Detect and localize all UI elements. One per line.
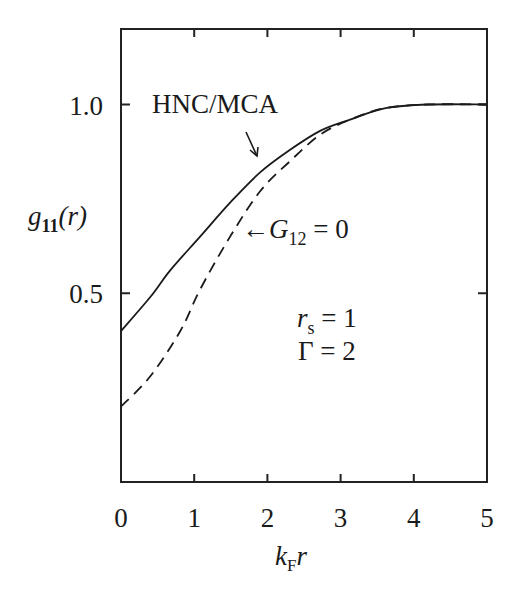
hnc-mca-label: HNC/MCA — [152, 89, 279, 119]
x-tick-label: 5 — [480, 503, 494, 533]
x-tick-label: 1 — [187, 503, 201, 533]
pair-correlation-chart: 012345 0.51.0 g11(r) kFr HNC/MCA ←G12 = … — [0, 0, 518, 594]
x-tick-labels: 012345 — [114, 503, 494, 533]
y-tick-label: 0.5 — [69, 279, 103, 309]
x-tick-label: 2 — [261, 503, 275, 533]
x-tick-label: 0 — [114, 503, 128, 533]
x-tick-label: 3 — [334, 503, 348, 533]
gamma-parameter: Γ = 2 — [298, 336, 356, 366]
hnc-mca-curve — [121, 104, 487, 331]
y-tick-labels: 0.51.0 — [69, 91, 103, 310]
x-tick-label: 4 — [407, 503, 421, 533]
y-tick-label: 1.0 — [69, 91, 103, 121]
g12-label: ←G12 = 0 — [242, 214, 349, 249]
y-axis-label: g11(r) — [28, 201, 87, 236]
x-axis-label: kFr — [275, 541, 307, 575]
rs-parameter: rs = 1 — [297, 303, 357, 338]
hnc-arrow-icon — [246, 132, 258, 156]
